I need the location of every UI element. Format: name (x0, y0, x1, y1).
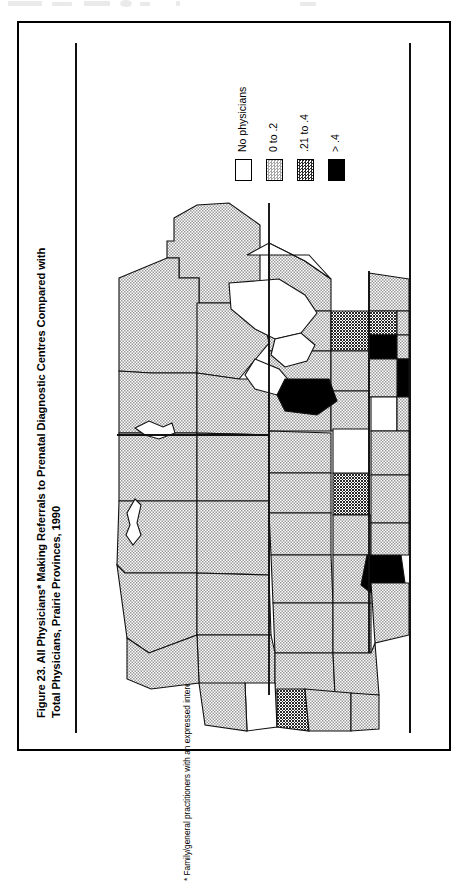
legend-label-greater-than-4: > .4 (329, 96, 343, 196)
legend-item-greater-than-4: > .4 (328, 61, 352, 181)
map-region (331, 391, 369, 431)
map-region (397, 311, 409, 335)
map-region (269, 473, 331, 513)
map-region (397, 397, 409, 431)
map-region (369, 335, 397, 359)
scan-artifact-band (0, 0, 471, 14)
map-region (369, 273, 409, 311)
map-region (271, 555, 333, 603)
map-region (305, 689, 351, 731)
legend-label-0-to-2: 0 to .2 (267, 96, 281, 196)
map-svg (79, 183, 409, 743)
map-region (269, 431, 331, 473)
map-region (333, 473, 369, 515)
legend-swatch-greater-than-4 (328, 159, 345, 181)
figure-frame: Figure 23. All Physicians* Making Referr… (17, 21, 451, 751)
map-region (277, 689, 309, 731)
map-region (369, 311, 397, 335)
map-legend: No physicians 0 to .2 .21 to .4 > .4 (235, 61, 375, 181)
map-region (397, 359, 409, 397)
map-region (119, 371, 197, 433)
map-region (333, 515, 371, 555)
map-region (371, 475, 409, 523)
map-region (369, 359, 397, 397)
legend-label-no-physicians: No physicians (236, 96, 250, 196)
figure-title-line-1: Figure 23. All Physicians* Making Referr… (34, 248, 49, 718)
map-region (119, 433, 197, 501)
map-regions-alberta (117, 203, 271, 653)
legend-swatch-no-physicians (235, 159, 252, 181)
legend-label-21-to-4: .21 to .4 (298, 96, 312, 196)
legend-swatch-0-to-2 (266, 159, 283, 181)
footnote-column-divider (409, 43, 411, 733)
map-region (371, 431, 409, 475)
legend-item-21-to-4: .21 to .4 (297, 61, 321, 181)
map-region (371, 397, 397, 431)
map-region (199, 683, 247, 731)
choropleth-map (79, 183, 409, 743)
map-region (331, 311, 369, 351)
map-region (197, 501, 269, 575)
map-region (333, 603, 371, 653)
map-region (351, 693, 379, 731)
map-region (245, 683, 277, 731)
map-region (273, 603, 333, 653)
figure-title-line-2: Total Physicians, Prairie Provinces, 199… (49, 506, 64, 718)
map-region (269, 513, 331, 555)
legend-item-0-to-2: 0 to .2 (266, 61, 290, 181)
map-region (333, 429, 369, 473)
figure-title: Figure 23. All Physicians* Making Referr… (34, 28, 74, 718)
title-column-divider (75, 43, 77, 733)
map-region (371, 523, 409, 555)
legend-item-no-physicians: No physicians (235, 61, 259, 181)
map-region (397, 335, 409, 359)
legend-swatch-21-to-4 (297, 159, 314, 181)
map-region (197, 573, 271, 635)
map-region (371, 583, 409, 643)
map-region (331, 351, 369, 391)
map-region (197, 433, 269, 501)
